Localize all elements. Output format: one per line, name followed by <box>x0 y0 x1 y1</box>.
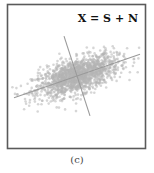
scatter-point <box>98 82 101 85</box>
scatter-point <box>133 61 136 64</box>
scatter-point <box>83 70 86 73</box>
scatter-point <box>47 70 50 73</box>
scatter-point <box>111 69 114 72</box>
scatter-point <box>44 74 47 77</box>
scatter-point <box>23 108 26 111</box>
scatter-point <box>113 76 116 79</box>
scatter-point <box>83 59 86 62</box>
scatter-point <box>109 51 112 54</box>
scatter-point <box>122 68 125 71</box>
scatter-point <box>92 55 95 58</box>
scatter-point <box>48 97 51 100</box>
scatter-point <box>56 68 59 71</box>
scatter-point <box>94 67 97 70</box>
scatter-point <box>48 78 51 81</box>
scatter-point <box>14 93 17 96</box>
scatter-point <box>26 83 29 86</box>
scatter-point <box>105 49 108 52</box>
scatter-point <box>46 99 49 102</box>
scatter-point <box>90 65 93 68</box>
scatter-point <box>88 87 91 90</box>
scatter-point <box>83 57 86 60</box>
scatter-point <box>121 64 124 67</box>
scatter-point <box>82 85 85 88</box>
scatter-point <box>66 89 69 92</box>
scatter-point <box>28 104 31 107</box>
scatter-point <box>103 79 106 82</box>
scatter-point <box>47 102 50 105</box>
scatter-point <box>33 98 36 101</box>
scatter-point <box>38 98 41 101</box>
scatter-point <box>70 89 73 92</box>
scatter-point <box>36 110 39 113</box>
scatter-point <box>55 106 58 109</box>
scatter-point <box>108 59 111 62</box>
scatter-point <box>59 76 62 79</box>
scatter-point <box>83 52 86 55</box>
scatter-point <box>83 88 86 91</box>
scatter-point <box>88 80 91 83</box>
scatter-point <box>90 59 93 62</box>
scatter-point <box>37 75 40 78</box>
scatter-point <box>86 67 89 70</box>
scatter-point <box>113 52 116 55</box>
scatter-point <box>55 88 58 91</box>
scatter-point <box>67 66 70 69</box>
scatter-point <box>36 84 39 87</box>
scatter-point <box>125 66 128 69</box>
scatter-point <box>74 78 77 81</box>
scatter-point <box>64 66 67 69</box>
scatter-point <box>81 66 84 69</box>
scatter-point <box>62 87 65 90</box>
scatter-point <box>107 56 110 59</box>
scatter-point <box>52 63 55 66</box>
scatter-point <box>63 94 66 97</box>
scatter-point <box>89 84 92 87</box>
scatter-point <box>49 86 52 89</box>
scatter-point <box>60 91 63 94</box>
scatter-point <box>103 52 106 55</box>
scatter-point <box>91 82 94 85</box>
scatter-point <box>76 88 79 91</box>
scatter-point <box>53 95 56 98</box>
scatter-point <box>111 45 114 48</box>
scatter-point <box>95 81 98 84</box>
scatter-point <box>67 84 70 87</box>
scatter-point <box>60 67 63 70</box>
scatter-point <box>92 63 95 66</box>
scatter-point <box>119 76 122 79</box>
scatter-point <box>102 61 105 64</box>
scatter-point <box>40 75 43 78</box>
scatter-point <box>56 60 59 63</box>
scatter-point <box>63 97 66 100</box>
scatter-point <box>58 72 61 75</box>
scatter-point <box>117 66 120 69</box>
scatter-point <box>72 67 75 70</box>
scatter-point <box>42 68 45 71</box>
scatter-point <box>49 100 52 103</box>
scatter-point <box>34 79 37 82</box>
scatter-point <box>99 49 102 52</box>
scatter-point <box>41 78 44 81</box>
scatter-point <box>87 52 90 55</box>
scatter-point <box>103 81 106 84</box>
scatter-point <box>68 81 71 84</box>
scatter-point <box>80 62 83 65</box>
scatter-point <box>92 47 95 50</box>
scatter-point <box>44 77 47 80</box>
scatter-point <box>92 87 95 90</box>
scatter-point <box>59 58 62 61</box>
scatter-point <box>75 102 78 105</box>
scatter-point <box>65 69 68 72</box>
scatter-point <box>136 71 139 74</box>
scatter-point <box>128 79 131 82</box>
scatter-point <box>97 60 100 63</box>
scatter-point <box>77 65 80 68</box>
scatter-point <box>91 77 94 80</box>
scatter-point <box>75 98 78 101</box>
scatter-point <box>53 90 56 93</box>
scatter-point <box>102 56 105 59</box>
scatter-point <box>54 100 57 103</box>
scatter-point <box>85 92 88 95</box>
scatter-point <box>77 93 80 96</box>
